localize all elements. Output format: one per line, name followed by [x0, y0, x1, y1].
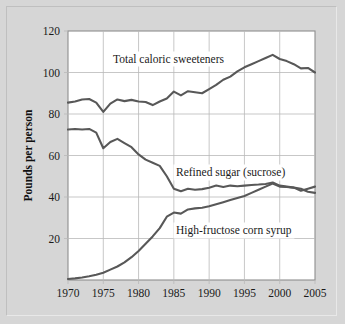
x-tick-label: 1985 — [162, 287, 185, 299]
x-tick-label: 1990 — [198, 287, 221, 299]
y-tick-label: 120 — [43, 25, 61, 37]
x-axis-tick-labels: 19701975198019851990199520002005 — [57, 287, 327, 299]
y-tick-label: 100 — [43, 67, 61, 79]
chart-figure: 12010080604020 1970197519801985199019952… — [0, 0, 345, 324]
x-tick-label: 1980 — [127, 287, 150, 299]
series-label-text-total: Total caloric sweeteners — [113, 53, 224, 65]
series-label-sugar: Refined sugar (sucrose) — [174, 165, 288, 181]
line-chart-svg: 12010080604020 1970197519801985199019952… — [0, 0, 345, 324]
y-tick-label: 40 — [49, 191, 61, 203]
series-label-text-hfcs: High-fructose corn syrup — [176, 224, 292, 237]
x-tick-label: 1970 — [57, 287, 80, 299]
x-tick-label: 1975 — [92, 287, 115, 299]
y-axis-title-group: Pounds per person — [22, 109, 35, 201]
y-tick-label: 80 — [49, 108, 61, 120]
x-tick-label: 1995 — [233, 287, 256, 299]
y-tick-label: 60 — [49, 150, 61, 162]
series-label-hfcs: High-fructose corn syrup — [174, 223, 295, 239]
x-tick-label: 2005 — [304, 287, 327, 299]
y-tick-label: 20 — [49, 233, 61, 245]
x-tick-label: 2000 — [268, 287, 291, 299]
series-label-text-sugar: Refined sugar (sucrose) — [176, 166, 285, 179]
series-label-total: Total caloric sweeteners — [111, 52, 227, 67]
y-axis-title: Pounds per person — [22, 109, 35, 201]
plot-container: 12010080604020 1970197519801985199019952… — [0, 0, 345, 324]
y-axis-tick-labels: 12010080604020 — [43, 25, 61, 245]
